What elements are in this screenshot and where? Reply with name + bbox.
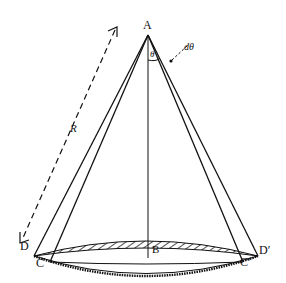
cone-generators [34,35,258,262]
label-C-prime: C′ [240,255,251,269]
slant-length-arrow [20,27,117,243]
label-R: R [69,122,77,134]
label-D: D [20,239,29,253]
line-AD-prime [148,35,258,256]
label-D-prime: D′ [259,243,271,257]
line-AC [50,35,148,262]
label-dtheta: dθ [184,41,194,52]
hatched-ring [34,241,258,276]
label-C: C [36,256,44,270]
line-AD [34,35,148,256]
line-AC-prime [148,35,243,262]
label-theta: θ [150,49,155,59]
cone-diagram: A θ dθ R B D C C′ D′ [0,0,286,283]
label-B: B [152,243,159,255]
label-A: A [143,18,152,32]
